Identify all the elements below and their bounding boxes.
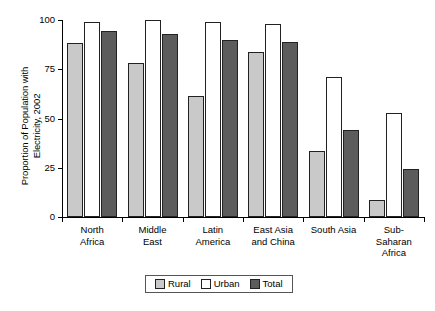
bar-total: [403, 169, 419, 217]
x-tick-mark: [364, 217, 365, 222]
y-axis-line: [62, 20, 63, 218]
legend-label-rural: Rural: [168, 279, 191, 289]
bar-total: [282, 42, 298, 217]
y-tick-mark: [58, 119, 62, 120]
bar-urban: [205, 22, 221, 217]
category-label: North Africa: [62, 224, 122, 247]
legend-item-rural: Rural: [155, 279, 191, 289]
y-tick-label: 50: [21, 114, 55, 124]
category-label: Latin America: [183, 224, 243, 247]
x-tick-mark: [303, 217, 304, 222]
y-axis-title: Proportion of Population with Electricit…: [19, 31, 43, 221]
bar-total: [162, 34, 178, 217]
x-tick-mark: [122, 217, 123, 222]
bar-urban: [265, 24, 281, 217]
legend-swatch-rural: [155, 279, 165, 289]
legend-swatch-total: [250, 279, 260, 289]
bar-rural: [128, 63, 144, 217]
y-tick-label: 0: [21, 212, 55, 222]
bar-urban: [386, 113, 402, 217]
category-label: East Asia and China: [243, 224, 303, 247]
bar-total: [101, 31, 117, 217]
bar-total: [222, 40, 238, 217]
y-tick-label: 25: [21, 163, 55, 173]
bar-rural: [309, 151, 325, 217]
x-tick-mark: [62, 217, 63, 222]
y-tick-mark: [58, 69, 62, 70]
x-tick-mark: [243, 217, 244, 222]
bar-urban: [326, 77, 342, 217]
legend-label-total: Total: [263, 279, 283, 289]
y-tick-label: 100: [21, 15, 55, 25]
x-tick-mark: [424, 217, 425, 222]
bar-rural: [369, 200, 385, 217]
bar-chart: Proportion of Population with Electricit…: [0, 0, 435, 311]
category-label: Sub- Saharan Africa: [364, 224, 424, 259]
x-tick-mark: [183, 217, 184, 222]
chart-legend: Rural Urban Total: [145, 275, 293, 293]
bar-urban: [145, 20, 161, 217]
legend-swatch-urban: [201, 279, 211, 289]
y-tick-label: 75: [21, 64, 55, 74]
category-label: South Asia: [303, 224, 363, 236]
bar-rural: [67, 43, 83, 217]
category-label: Middle East: [122, 224, 182, 247]
bar-rural: [248, 52, 264, 217]
plot-area: 0255075100: [62, 20, 424, 217]
bar-rural: [188, 96, 204, 217]
y-tick-mark: [58, 168, 62, 169]
bar-total: [343, 130, 359, 217]
legend-item-total: Total: [250, 279, 283, 289]
bar-urban: [84, 22, 100, 217]
legend-label-urban: Urban: [214, 279, 240, 289]
legend-item-urban: Urban: [201, 279, 240, 289]
y-tick-mark: [58, 20, 62, 21]
